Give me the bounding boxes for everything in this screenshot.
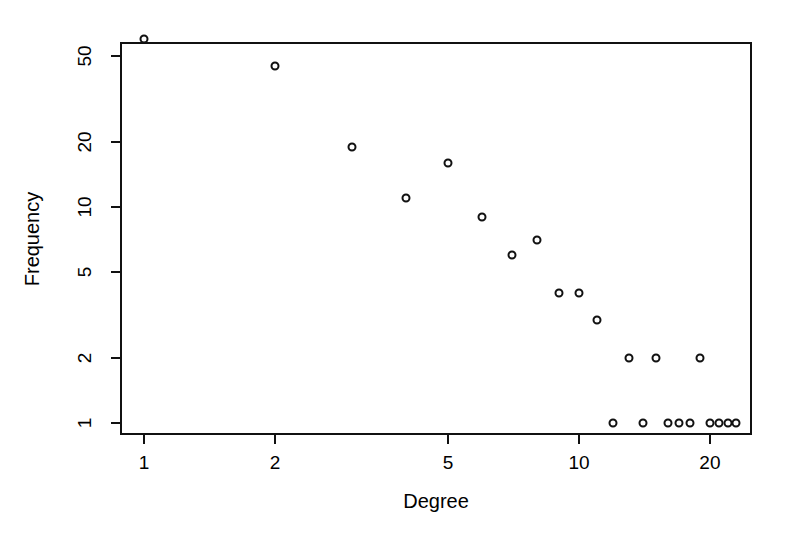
y-tick-mark [111, 271, 120, 273]
x-tick-mark [143, 435, 145, 444]
y-tick-label: 5 [74, 255, 96, 289]
x-tick-label: 10 [568, 452, 589, 474]
data-point [638, 419, 647, 428]
x-tick-mark [578, 435, 580, 444]
data-point [593, 315, 602, 324]
x-tick-label: 1 [139, 452, 150, 474]
y-tick-label: 2 [74, 341, 96, 375]
data-point [444, 158, 453, 167]
y-tick-mark [111, 422, 120, 424]
data-point [686, 419, 695, 428]
data-point [347, 142, 356, 151]
y-tick-label: 10 [74, 190, 96, 224]
data-point [675, 419, 684, 428]
x-tick-label: 5 [443, 452, 454, 474]
y-tick-mark [111, 55, 120, 57]
x-axis-title: Degree [403, 490, 469, 513]
y-axis-title: Frequency [21, 191, 44, 286]
data-point [705, 419, 714, 428]
x-tick-mark [274, 435, 276, 444]
data-point [532, 236, 541, 245]
scatter-plot-figure: 1251020 125102050 Degree Frequency [0, 0, 790, 547]
data-point [555, 288, 564, 297]
y-tick-label: 1 [74, 406, 96, 440]
y-tick-mark [111, 206, 120, 208]
data-point [696, 353, 705, 362]
y-tick-label: 50 [74, 39, 96, 73]
data-point [732, 419, 741, 428]
data-point [401, 194, 410, 203]
data-point [270, 61, 279, 70]
y-tick-mark [111, 141, 120, 143]
x-tick-label: 20 [699, 452, 720, 474]
plot-frame [120, 42, 752, 435]
x-tick-mark [447, 435, 449, 444]
data-point [575, 288, 584, 297]
x-tick-label: 2 [270, 452, 281, 474]
data-point [609, 419, 618, 428]
data-point [507, 250, 516, 259]
data-point [663, 419, 672, 428]
data-point [624, 353, 633, 362]
data-point [140, 34, 149, 43]
data-point [715, 419, 724, 428]
data-point [478, 212, 487, 221]
x-tick-mark [709, 435, 711, 444]
data-point [651, 353, 660, 362]
y-tick-mark [111, 357, 120, 359]
y-tick-label: 20 [74, 125, 96, 159]
